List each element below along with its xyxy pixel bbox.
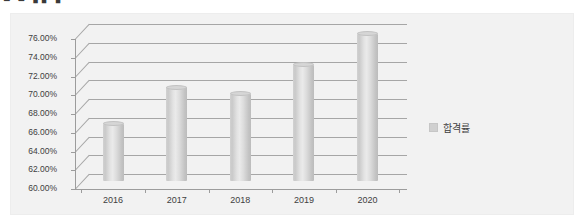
depth-connector [75, 80, 90, 96]
bar [357, 34, 378, 181]
y-axis-label: 68.00% [28, 109, 57, 118]
depth-connector [75, 155, 90, 171]
x-axis-label: 2016 [87, 195, 139, 205]
depth-connector [75, 24, 90, 40]
x-axis-tick [145, 189, 146, 193]
depth-connector [75, 43, 90, 59]
bar-top-cap [230, 91, 251, 96]
x-axis-tick [399, 189, 400, 193]
value-axis-line [75, 39, 76, 189]
bar [230, 94, 251, 181]
y-axis-label: 76.00% [28, 34, 57, 43]
bar-top-cap [103, 121, 124, 126]
x-axis-label: 2018 [214, 195, 266, 205]
y-axis-label: 74.00% [28, 53, 57, 62]
x-axis-label: 2019 [278, 195, 330, 205]
gridline [89, 24, 407, 25]
legend-swatch-icon [429, 123, 438, 132]
y-axis-label: 64.00% [28, 147, 57, 156]
bar [166, 87, 187, 181]
depth-connector [75, 62, 90, 78]
bar [103, 124, 124, 181]
bar [293, 65, 314, 181]
y-axis-label: 60.00% [28, 184, 57, 193]
chart-panel: 60.00%62.00%64.00%66.00%68.00%70.00%72.0… [10, 13, 574, 215]
category-axis-line [75, 189, 407, 190]
chart-legend: 합격률 [429, 120, 470, 135]
plot-area: 60.00%62.00%64.00%66.00%68.00%70.00%72.0… [59, 24, 409, 199]
x-axis-label: 2017 [151, 195, 203, 205]
depth-connector [75, 118, 90, 134]
clipped-top-text: ■ ■ ▮▮ ▮ · · · [3, 0, 97, 5]
clipped-top-text-row: ■ ■ ▮▮ ▮ · · · [0, 0, 584, 9]
legend-label: 합격률 [443, 120, 470, 135]
x-axis-tick [336, 189, 337, 193]
depth-connector [75, 137, 90, 153]
depth-connector [75, 99, 90, 115]
y-axis-label: 72.00% [28, 72, 57, 81]
y-axis-label: 70.00% [28, 90, 57, 99]
x-axis-tick [272, 189, 273, 193]
x-axis-tick [209, 189, 210, 193]
y-axis-label: 66.00% [28, 128, 57, 137]
y-axis-label: 62.00% [28, 165, 57, 174]
bar-top-cap [166, 85, 187, 90]
x-axis-tick [81, 189, 82, 193]
x-axis-label: 2020 [342, 195, 394, 205]
depth-connector [75, 174, 90, 190]
